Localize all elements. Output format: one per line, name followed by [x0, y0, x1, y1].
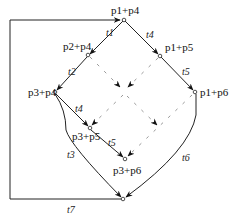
edge-dashed-3: [92, 95, 123, 125]
state-label: p3+p4: [28, 87, 56, 98]
edge-dashed-1: [90, 57, 120, 87]
state-label: p3+p6: [113, 165, 141, 176]
transition-label: t3: [67, 150, 75, 160]
transition-label: t4: [75, 104, 83, 114]
reachability-graph: [0, 0, 236, 223]
edge-dashed-2: [128, 58, 158, 87]
state-label: p2+p4: [63, 41, 91, 52]
node-p1-p4: [122, 18, 126, 22]
node-p2-p4: [86, 53, 90, 57]
state-label: p1+p5: [165, 42, 193, 53]
state-label: p1+p6: [200, 87, 228, 98]
node-p1-p6: [193, 90, 197, 94]
state-label: p1+p4: [111, 5, 139, 16]
transition-label: t6: [182, 153, 190, 163]
transition-label: t1: [106, 28, 114, 38]
edge-dashed-5: [128, 95, 192, 156]
transition-label: t5: [182, 67, 190, 77]
edge-t4-left: [56, 94, 88, 126]
transition-label: t4: [146, 30, 154, 40]
node-p3-p6: [123, 157, 127, 161]
transition-label: t7: [67, 205, 75, 215]
node-p1-p5: [158, 54, 162, 58]
edge-t6: [126, 94, 196, 197]
node-final: [121, 197, 125, 201]
edge-dashed-4: [127, 96, 157, 125]
transition-label: t2: [68, 67, 76, 77]
state-label: p3+p5: [72, 131, 100, 142]
transition-label: t5: [108, 138, 116, 148]
